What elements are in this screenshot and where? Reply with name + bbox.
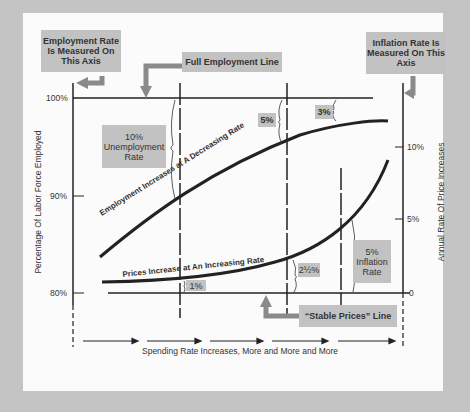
gap-label-line: Unemployment (104, 142, 165, 152)
left-axis-title: Percentage Of Labor Force Employed (33, 130, 43, 273)
gap-label-line: Rate (362, 267, 381, 277)
tick-80: 80% (50, 288, 67, 298)
unemployment-3-label: 3% (315, 105, 333, 119)
tick-100: 100% (46, 93, 68, 103)
tick-90: 90% (50, 191, 67, 201)
inflation-2-5-label: 2½% (298, 263, 320, 277)
full-employment-callout-text: Full Employment Line (185, 57, 279, 67)
gap-label-line: Inflation (356, 257, 388, 267)
gap-label-line: 10% (125, 132, 143, 142)
unemployment-10-label: 10% Unemployment Rate (102, 125, 166, 168)
gap-label-line: Rate (124, 152, 143, 162)
inflation-5-label: 5% Inflation Rate (353, 240, 391, 283)
employment-axis-callout: Employment Rate Is Measured On This Axis (41, 30, 121, 72)
tick-10: 10% (407, 142, 424, 152)
full-employment-callout: Full Employment Line (182, 52, 282, 72)
inflation-axis-callout-text: Inflation Rate Is Measured On This Axis (366, 38, 446, 68)
tick-0: 0 (409, 288, 414, 298)
stable-prices-callout: “Stable Prices” Line (299, 305, 397, 327)
unemployment-5-label: 5% (258, 113, 276, 127)
tick-5: 5% (407, 214, 419, 224)
stable-prices-callout-text: “Stable Prices” Line (305, 311, 392, 321)
inflation-1-label: 1% (186, 280, 206, 291)
x-axis-title: Spending Rate Increases, More and More a… (142, 346, 338, 356)
right-axis-title: Annual Rate Of Price Increases (436, 142, 446, 261)
inflation-axis-callout: Inflation Rate Is Measured On This Axis (366, 32, 446, 74)
employment-axis-callout-text: Employment Rate Is Measured On This Axis (41, 36, 121, 66)
gap-label-line: 5% (365, 247, 378, 257)
